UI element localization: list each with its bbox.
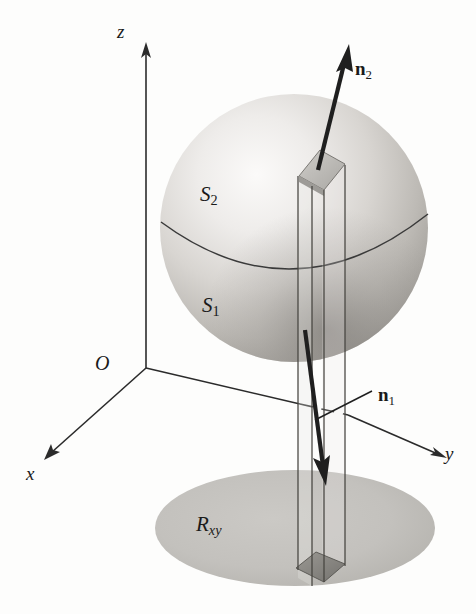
normal-label-n2-base: n (355, 58, 366, 79)
surface-label-s2-base: S (200, 182, 211, 206)
normal-label-n1: n1 (378, 385, 395, 408)
surface-label-s1-subscript: 1 (213, 303, 220, 319)
origin-label: O (95, 353, 109, 373)
figure-canvas (0, 0, 476, 614)
surface-label-s1: S1 (202, 295, 220, 318)
surface-label-s2: S2 (200, 184, 218, 207)
prism-right-face (322, 166, 345, 580)
axis-label-y: y (445, 444, 453, 463)
normal-label-n2-subscript: 2 (366, 67, 372, 82)
axis-label-z: z (117, 22, 124, 41)
y-axis-line-front (146, 368, 300, 404)
axis-label-x: x (26, 464, 34, 483)
normal-label-n2: n2 (355, 59, 372, 82)
normal-label-n1-base: n (378, 384, 389, 405)
region-label-rxy-base: R (196, 512, 209, 536)
sphere (160, 94, 428, 362)
region-label-rxy-subscript: xy (209, 522, 222, 538)
normal-label-n1-subscript: 1 (389, 393, 395, 408)
normal-n2-arrowhead (336, 44, 353, 72)
surface-label-s2-subscript: 2 (211, 192, 218, 208)
region-label-rxy: Rxy (196, 514, 222, 537)
x-axis-line (52, 368, 146, 452)
surface-label-s1-base: S (202, 293, 213, 317)
vector-calculus-figure: z x y O S2 S1 Rxy n2 n1 (0, 0, 476, 614)
y-axis-line-back (348, 415, 440, 455)
